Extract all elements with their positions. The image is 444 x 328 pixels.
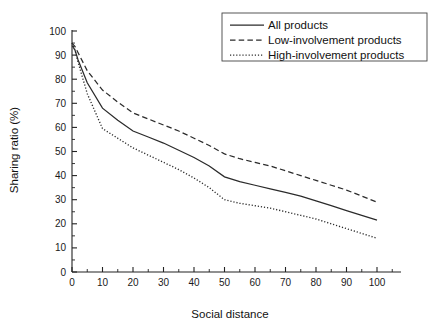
chart-figure: 0102030405060708090100 01020304050607080… bbox=[0, 0, 444, 328]
y-axis-title: Sharing ratio (%) bbox=[8, 107, 20, 193]
y-tick-label: 10 bbox=[55, 242, 67, 253]
y-tick-label: 0 bbox=[60, 267, 66, 278]
y-tick-label: 100 bbox=[49, 26, 66, 37]
x-tick-label: 60 bbox=[249, 277, 261, 288]
x-tick-label: 20 bbox=[127, 277, 139, 288]
y-tick-label: 30 bbox=[55, 194, 67, 205]
x-tick-label: 0 bbox=[69, 277, 75, 288]
y-tick-label: 40 bbox=[55, 170, 67, 181]
series-line-dashed bbox=[72, 43, 377, 202]
x-tick-label: 70 bbox=[280, 277, 292, 288]
line-chart-canvas: 0102030405060708090100 01020304050607080… bbox=[0, 0, 444, 328]
legend-label: All products bbox=[268, 19, 328, 31]
x-tick-label: 10 bbox=[97, 277, 109, 288]
x-tick-label: 40 bbox=[188, 277, 200, 288]
axis-ticks bbox=[72, 31, 392, 272]
y-tick-label: 70 bbox=[55, 98, 67, 109]
legend-label: Low-involvement products bbox=[268, 34, 402, 46]
y-tick-label: 80 bbox=[55, 74, 67, 85]
y-tick-label: 60 bbox=[55, 122, 67, 133]
y-axis-tick-labels: 0102030405060708090100 bbox=[49, 26, 66, 278]
x-tick-label: 80 bbox=[310, 277, 322, 288]
x-tick-label: 90 bbox=[341, 277, 353, 288]
x-tick-label: 30 bbox=[158, 277, 170, 288]
y-tick-label: 20 bbox=[55, 218, 67, 229]
x-axis-title: Social distance bbox=[191, 308, 268, 320]
series-line-solid bbox=[72, 45, 377, 220]
y-tick-label: 50 bbox=[55, 146, 67, 157]
x-axis-tick-labels: 0102030405060708090100 bbox=[69, 277, 386, 288]
x-tick-label: 50 bbox=[219, 277, 231, 288]
series-line-dotted bbox=[72, 43, 377, 238]
legend-label: High-involvement products bbox=[268, 49, 404, 61]
y-tick-label: 90 bbox=[55, 50, 67, 61]
data-series bbox=[72, 43, 377, 238]
axes bbox=[72, 30, 401, 272]
x-tick-label: 100 bbox=[369, 277, 386, 288]
chart-legend: All productsLow-involvement productsHigh… bbox=[222, 13, 427, 61]
